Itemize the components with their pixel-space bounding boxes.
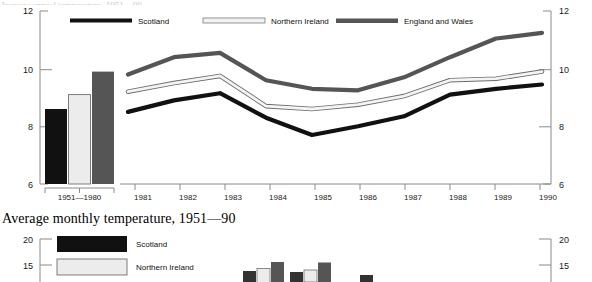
y-right-tick-12: 12 [559, 6, 569, 16]
x-tick-1987: 1987 [404, 193, 422, 200]
legend-label-england-and-wales: England and Wales [404, 17, 473, 26]
monthly-y-left-tick-15: 15 [23, 261, 33, 271]
monthly-legend-label-northern-ireland: Northern Ireland [136, 263, 194, 272]
legend-swatch-northern-ireland [203, 18, 265, 23]
monthly-bar-scotland [360, 275, 373, 282]
baseline-bar-group [45, 72, 114, 184]
legend-label-northern-ireland: Northern Ireland [271, 17, 329, 26]
monthly-chart-legend: Scotland Northern Ireland [57, 236, 194, 275]
x-tick-1982: 1982 [179, 193, 197, 200]
x-tick-1990: 1990 [539, 193, 557, 200]
monthly-legend-label-scotland: Scotland [136, 240, 167, 249]
monthly-left-y-axis: 20 15 [23, 235, 52, 282]
monthly-right-y-axis: 20 15 [539, 235, 569, 282]
x-axis-years: 1981 1982 1983 1984 1985 1986 1987 1988 … [120, 184, 557, 200]
x-tick-1981: 1981 [134, 193, 152, 200]
y-right-tick-8: 8 [559, 122, 564, 132]
annual-chart-legend: Scotland Northern Ireland England and Wa… [70, 17, 473, 26]
legend-swatch-england-and-wales [336, 19, 398, 24]
line-scotland [128, 85, 542, 136]
monthly-y-right-tick-20: 20 [559, 235, 569, 245]
monthly-bar-northern-ireland [304, 270, 317, 282]
monthly-bar-scotland [290, 272, 303, 282]
monthly-legend-swatch-scotland [57, 236, 127, 252]
x-tick-1989: 1989 [494, 193, 512, 200]
monthly-bar-england-and-wales [318, 263, 331, 282]
x-tick-1983: 1983 [224, 193, 242, 200]
monthly-legend-swatch-northern-ireland [57, 259, 127, 275]
annual-chart-svg: 12 10 8 6 12 10 8 6 Scotland Northern Ir… [0, 0, 592, 200]
y-left-tick-12: 12 [23, 6, 33, 16]
monthly-bar-scotland [243, 271, 256, 282]
baseline-bar-england-and-wales [92, 72, 114, 184]
monthly-bar-england-and-wales [271, 262, 284, 282]
x-tick-1985: 1985 [314, 193, 332, 200]
legend-swatch-scotland [70, 19, 132, 23]
monthly-bar-groups [243, 262, 373, 282]
monthly-chart-title: Average monthly temperature, 1951—90 [2, 211, 236, 227]
x-tick-1988: 1988 [449, 193, 467, 200]
monthly-temperature-chart: 20 15 20 15 Scotland Northern Ireland [0, 232, 592, 282]
y-left-tick-8: 8 [28, 122, 33, 132]
baseline-bar-northern-ireland [69, 95, 91, 184]
baseline-group-label: 1951—1980 [58, 193, 102, 200]
monthly-bar-northern-ireland [257, 269, 270, 282]
legend-label-scotland: Scotland [138, 17, 169, 26]
x-tick-1984: 1984 [269, 193, 287, 200]
x-tick-1986: 1986 [359, 193, 377, 200]
y-left-tick-6: 6 [28, 180, 33, 190]
y-right-tick-6: 6 [559, 180, 564, 190]
y-left-tick-10: 10 [23, 65, 33, 75]
monthly-y-left-tick-20: 20 [23, 235, 33, 245]
monthly-y-right-tick-15: 15 [559, 261, 569, 271]
monthly-chart-svg: 20 15 20 15 Scotland Northern Ireland [0, 232, 592, 282]
y-right-tick-10: 10 [559, 65, 569, 75]
baseline-bar-scotland [45, 109, 67, 184]
